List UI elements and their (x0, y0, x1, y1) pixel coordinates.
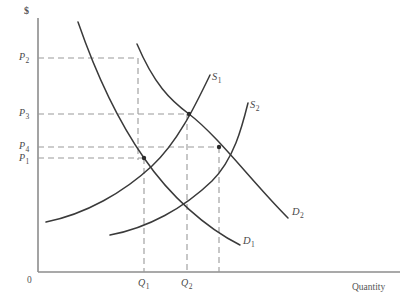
chart-plot-area (0, 0, 406, 307)
curve-label-d2: D2 (292, 207, 303, 218)
equilibrium-point-e2 (187, 112, 191, 116)
curve-label-s2: S2 (250, 100, 259, 111)
price-tick-p2: P2 (19, 52, 29, 62)
supply-curve-s1 (46, 75, 210, 222)
curve-label-s1: S1 (212, 72, 221, 83)
quantity-tick-q2: Q2 (181, 278, 192, 288)
origin-label: 0 (27, 276, 32, 286)
demand-curve-d1 (78, 22, 240, 245)
supply-demand-chart: $ Quantity 0 P2 P3 P4 P1 Q1 Q2 S1 S2 D1 … (0, 0, 406, 307)
equilibrium-point-e1 (142, 156, 146, 160)
equilibrium-point-e3 (217, 145, 221, 149)
price-tick-p3: P3 (19, 108, 29, 118)
y-axis-title: $ (24, 6, 29, 16)
curve-label-d1: D1 (243, 236, 254, 247)
price-tick-p1: P1 (19, 153, 29, 163)
x-axis-title: Quantity (352, 283, 385, 293)
supply-curve-s2 (110, 103, 248, 235)
quantity-tick-q1: Q1 (138, 278, 149, 288)
price-tick-p4: P4 (19, 141, 29, 151)
